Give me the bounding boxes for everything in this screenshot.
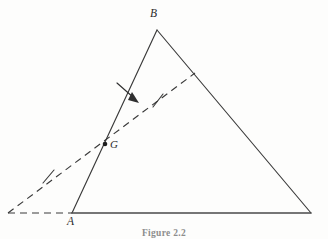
dashed-transversal-ray — [8, 73, 195, 213]
triangle-side-ab — [72, 30, 157, 213]
triangle-side-bc — [157, 30, 311, 213]
figure-caption: Figure 2.2 — [0, 228, 328, 238]
point-g-marker — [103, 142, 108, 147]
geometry-diagram — [0, 0, 328, 239]
tick-mark-upper-icon — [153, 94, 163, 107]
tick-mark-lower-icon — [43, 170, 54, 183]
point-label-g: G — [110, 139, 118, 150]
vertex-label-a: A — [67, 216, 74, 228]
vertex-label-b: B — [150, 8, 157, 20]
figure-container: B A G Figure 2.2 — [0, 0, 328, 239]
